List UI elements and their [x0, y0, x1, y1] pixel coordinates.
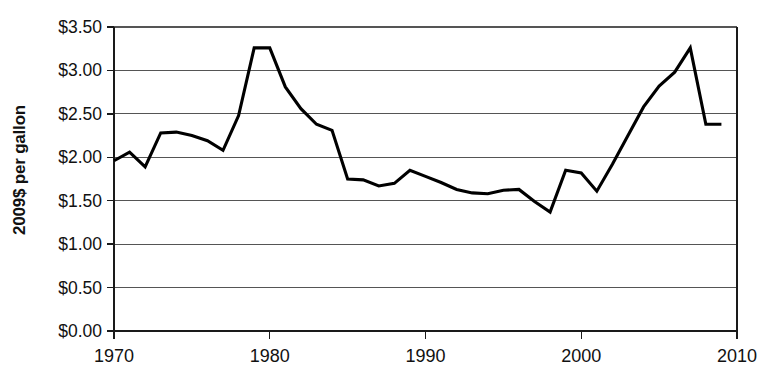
x-tick-group: 19701980199020002010 [94, 27, 757, 366]
y-tick-label: $1.50 [58, 191, 102, 211]
plot-svg: $3.50$3.00$2.50$2.00$1.50$1.00$0.50$0.00… [0, 0, 781, 383]
x-tick-label: 1970 [94, 346, 134, 366]
y-tick-group: $3.50$3.00$2.50$2.00$1.50$1.00$0.50$0.00 [58, 17, 114, 341]
gridlines-group [114, 27, 737, 331]
x-tick-label: 2010 [717, 346, 757, 366]
x-tick-label: 1990 [405, 346, 445, 366]
y-tick-label: $2.50 [58, 104, 102, 124]
y-tick-label: $0.00 [58, 321, 102, 341]
data-line-gasoline-price [114, 48, 721, 212]
x-tick-label: 2000 [561, 346, 601, 366]
gasoline-price-chart: 2009$ per gallon $3.50$3.00$2.50$2.00$1.… [0, 0, 781, 383]
y-tick-label: $3.00 [58, 60, 102, 80]
y-tick-label: $2.00 [58, 147, 102, 167]
y-tick-label: $3.50 [58, 17, 102, 37]
y-tick-label: $1.00 [58, 234, 102, 254]
x-tick-label: 1980 [250, 346, 290, 366]
y-tick-label: $0.50 [58, 278, 102, 298]
